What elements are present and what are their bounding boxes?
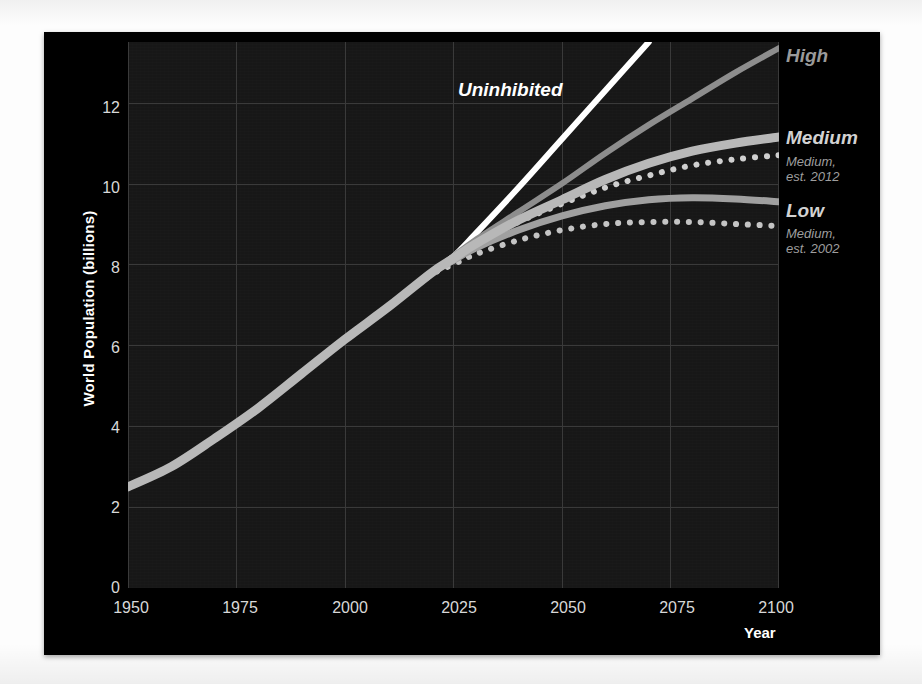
series-line-medium-est-2012 bbox=[128, 155, 779, 487]
x-axis-title: Year bbox=[744, 624, 776, 641]
y-tick-8: 8 bbox=[90, 260, 120, 276]
y-tick-2: 2 bbox=[90, 500, 120, 516]
y-tick-12: 12 bbox=[90, 100, 120, 116]
series-label-medium-est-2002: Medium, est. 2002 bbox=[786, 226, 840, 256]
series-line-uninhibited bbox=[128, 42, 649, 487]
x-tick-2075: 2075 bbox=[642, 600, 712, 616]
series-label-medium-est-2002-line2: est. 2002 bbox=[786, 241, 840, 256]
x-tick-2100: 2100 bbox=[741, 600, 811, 616]
y-tick-10: 10 bbox=[90, 180, 120, 196]
data-series-group bbox=[128, 42, 779, 588]
x-tick-2000: 2000 bbox=[315, 600, 385, 616]
series-label-medium-est-2012-line2: est. 2012 bbox=[786, 169, 840, 184]
series-line-low bbox=[128, 198, 779, 487]
series-label-uninhibited: Uninhibited bbox=[458, 79, 562, 101]
y-tick-0: 0 bbox=[90, 580, 120, 596]
series-label-high: High bbox=[786, 45, 828, 67]
series-label-low: Low bbox=[786, 200, 824, 222]
series-label-medium-est-2002-line1: Medium, bbox=[786, 226, 840, 241]
slide-page: World Population (billions) 12 10 8 6 4 … bbox=[0, 0, 922, 684]
y-tick-6: 6 bbox=[90, 340, 120, 356]
series-line-medium bbox=[128, 137, 779, 487]
x-tick-1975: 1975 bbox=[205, 600, 275, 616]
plot-area: Uninhibited bbox=[128, 42, 779, 588]
chart-slide-panel: World Population (billions) 12 10 8 6 4 … bbox=[44, 32, 880, 655]
y-tick-4: 4 bbox=[90, 420, 120, 436]
x-tick-2050: 2050 bbox=[533, 600, 603, 616]
y-axis-tick-group: 12 10 8 6 4 2 0 bbox=[68, 32, 120, 655]
series-label-medium-est-2012-line1: Medium, bbox=[786, 154, 840, 169]
series-line-high bbox=[128, 48, 779, 487]
x-tick-2025: 2025 bbox=[424, 600, 494, 616]
series-label-medium-est-2012: Medium, est. 2012 bbox=[786, 154, 840, 184]
series-label-medium: Medium bbox=[786, 127, 858, 149]
x-tick-1950: 1950 bbox=[96, 600, 166, 616]
